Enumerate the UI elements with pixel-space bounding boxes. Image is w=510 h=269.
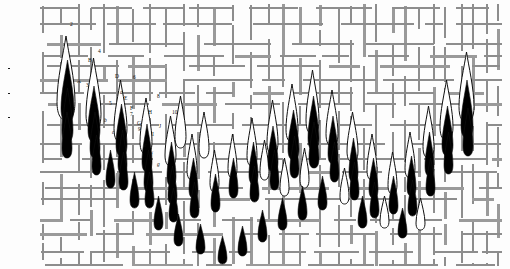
spectrum-peak bbox=[278, 198, 287, 230]
spectrum-peak bbox=[218, 236, 227, 264]
spectrum-peak bbox=[389, 176, 398, 214]
peak-annotation-label: 4 bbox=[98, 49, 101, 55]
peak-annotation-label: H bbox=[148, 110, 152, 116]
peak-annotation-label: C bbox=[91, 100, 95, 106]
spectrum-peak bbox=[229, 158, 238, 198]
peak-annotation-label: g bbox=[157, 162, 160, 168]
spectrum-peak bbox=[238, 226, 247, 256]
spectrum-figure: 24BD6A3dE8C5F7H10G9JIbcefg bbox=[0, 0, 510, 269]
peak-annotation-label: c bbox=[112, 130, 114, 136]
spectrum-peak bbox=[196, 224, 205, 254]
peak-annotation-label: D bbox=[115, 74, 119, 80]
spectrum-peak bbox=[380, 196, 389, 228]
peak-annotation-label: 2 bbox=[70, 22, 73, 28]
spectrum-peak bbox=[318, 176, 327, 210]
spectrum-peak bbox=[370, 182, 379, 218]
peak-annotation-label: E bbox=[124, 96, 127, 102]
spectrum-peak bbox=[190, 182, 199, 218]
peak-layer bbox=[0, 0, 510, 269]
spectrum-peak bbox=[300, 148, 309, 188]
peak-annotation-label: 10 bbox=[172, 110, 178, 116]
spectrum-peak bbox=[358, 196, 367, 228]
spectrum-peak bbox=[174, 214, 183, 246]
spectrum-peak bbox=[340, 168, 349, 204]
peak-annotation-label: b bbox=[104, 118, 107, 124]
spectrum-peak bbox=[444, 132, 453, 174]
spectrum-peak bbox=[250, 166, 259, 202]
spectrum-peak bbox=[416, 198, 425, 230]
spectrum-peak bbox=[398, 208, 407, 238]
spectrum-peak bbox=[199, 112, 209, 158]
peak-annotation-label: 5 bbox=[109, 101, 112, 107]
peak-annotation-label: 8 bbox=[157, 94, 160, 100]
spectrum-peak bbox=[290, 136, 299, 178]
peak-annotation-label: 3 bbox=[86, 83, 89, 89]
peak-annotation-label: 7 bbox=[130, 112, 133, 118]
spectrum-peak bbox=[408, 180, 417, 216]
spectrum-peak bbox=[130, 172, 139, 208]
peak-annotation-label: B bbox=[88, 58, 92, 64]
spectrum-peak bbox=[92, 135, 101, 175]
spectrum-peak bbox=[350, 162, 359, 200]
spectrum-peak bbox=[154, 196, 163, 230]
spectrum-peak bbox=[330, 142, 339, 182]
peak-annotation-label: f bbox=[151, 152, 153, 158]
spectrum-peak bbox=[211, 174, 220, 212]
peak-annotation-label: 9 bbox=[138, 127, 141, 133]
peak-annotation-label: e bbox=[144, 143, 146, 149]
spectrum-peak bbox=[119, 152, 128, 190]
spectrum-peak bbox=[270, 150, 279, 190]
peak-annotation-label: A bbox=[77, 79, 81, 85]
spectrum-peak bbox=[463, 108, 473, 156]
peak-annotation-label: 6 bbox=[133, 75, 136, 81]
spectrum-peak bbox=[280, 158, 289, 196]
spectrum-peak bbox=[298, 186, 307, 220]
spectrum-peak bbox=[145, 172, 154, 208]
spectrum-peak bbox=[258, 210, 267, 242]
spectrum-peak bbox=[426, 158, 435, 196]
peak-annotation-label: d bbox=[120, 90, 123, 96]
spectrum-peak bbox=[175, 96, 186, 148]
peak-annotation-label: I bbox=[152, 132, 154, 138]
spectrum-peak bbox=[106, 150, 115, 188]
spectrum-peak bbox=[62, 112, 72, 158]
spectrum-peak bbox=[309, 122, 319, 168]
peak-annotation-label: J bbox=[159, 124, 161, 130]
